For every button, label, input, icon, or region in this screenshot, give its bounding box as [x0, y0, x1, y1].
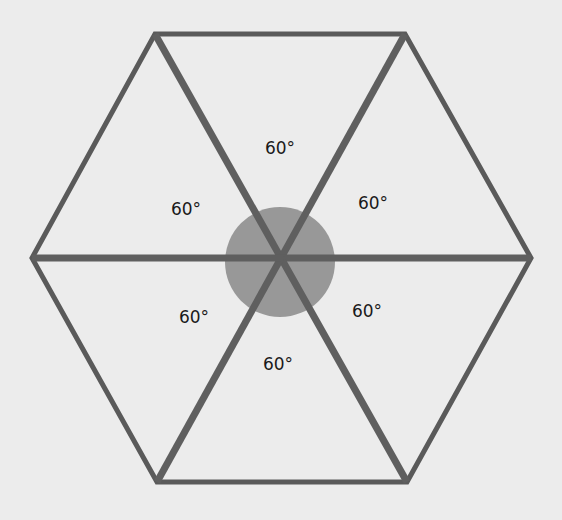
angle-label-lower-right: 60°	[352, 301, 382, 321]
angle-label-top: 60°	[265, 138, 295, 158]
angle-label-upper-left: 60°	[171, 199, 201, 219]
radial-line-top-right	[281, 34, 405, 258]
angle-label-lower-left: 60°	[179, 307, 209, 327]
angle-label-upper-right: 60°	[358, 193, 388, 213]
radial-line-bottom-right	[281, 258, 407, 482]
angle-label-bottom: 60°	[263, 354, 293, 374]
radial-line-top-left	[155, 34, 281, 258]
hexagon-diagram: 60°60°60°60°60°60°	[0, 0, 562, 520]
hexagon-svg	[0, 0, 562, 520]
radial-lines	[32, 34, 531, 482]
